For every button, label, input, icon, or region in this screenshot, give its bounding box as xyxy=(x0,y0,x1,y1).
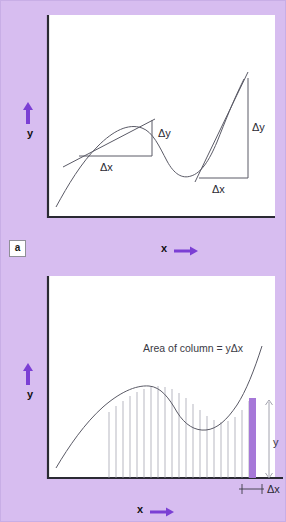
panel-a: y x Δy Δx xyxy=(1,1,286,262)
panel-b-plot: y Δx Area of column = yΔx xyxy=(43,276,283,504)
arrow-up-icon xyxy=(21,362,35,390)
panel-a-y-axis-label: y xyxy=(27,127,33,139)
arrow-right-icon xyxy=(173,243,199,261)
panel-b-area-note: Area of column = yΔx xyxy=(143,342,244,354)
panel-a-x-axis-label: x xyxy=(161,242,167,254)
panel-b-y-axis-label: y xyxy=(27,388,33,400)
panel-a-delta-y-label-2: Δy xyxy=(252,121,265,133)
panel-b-svg: y Δx Area of column = yΔx xyxy=(43,276,283,504)
panel-a-delta-x-label-2: Δx xyxy=(212,183,225,195)
panel-a-delta-y-label-1: Δy xyxy=(158,127,171,139)
panel-b-plot-background xyxy=(48,276,275,478)
panel-a-delta-x-label-1: Δx xyxy=(100,161,113,173)
panel-b: y x xyxy=(1,262,286,522)
panel-tag-a: a xyxy=(9,240,26,257)
panel-b-width-measure xyxy=(239,484,264,494)
arrow-right-icon xyxy=(149,504,175,522)
panel-a-svg: Δy Δx Δy Δx xyxy=(43,15,275,225)
panel-b-highlighted-column xyxy=(249,398,256,478)
panel-b-column-height-label: y xyxy=(273,436,279,448)
figure-container: y x Δy Δx xyxy=(0,0,286,522)
panel-a-plot-background xyxy=(48,15,275,217)
arrow-up-icon xyxy=(21,101,35,129)
panel-a-plot: Δy Δx Δy Δx xyxy=(43,15,275,225)
panel-b-x-axis-label: x xyxy=(137,503,143,515)
panel-b-column-width-label: Δx xyxy=(267,483,280,495)
